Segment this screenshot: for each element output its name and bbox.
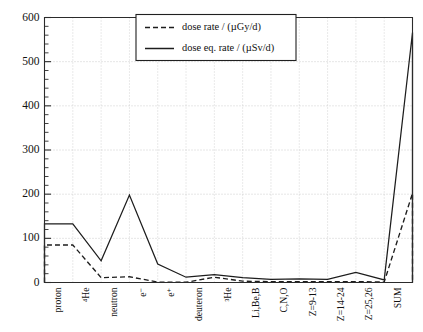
x-axis-tick-label-group: ³He (222, 288, 233, 302)
x-axis-tick-label-group: SUM (392, 287, 403, 308)
legend-entry-label: dose eq. rate / (µSv/d) (182, 42, 274, 54)
x-axis-tick-label: Li,Be,B (250, 288, 261, 318)
x-axis-tick-label-group: Z=9-13 (307, 287, 318, 316)
chart-legend: dose rate / (µGy/d)dose eq. rate / (µSv/… (136, 15, 296, 61)
x-axis-tick-label: ³He (222, 288, 233, 302)
x-axis-tick-label-group: Z=25,26 (363, 287, 374, 320)
x-axis-tick-label-group: Li,Be,B (250, 288, 261, 318)
series-layer (45, 33, 413, 283)
legend-entry-label: dose rate / (µGy/d) (182, 21, 261, 33)
y-axis-tick-label: 100 (22, 231, 40, 243)
x-axis-tick-label: neutron (108, 287, 119, 317)
x-axis-tick-label: e⁺ (165, 288, 176, 297)
y-axis-tick-label: 0 (34, 276, 40, 288)
y-axis-tick-label: 500 (22, 55, 40, 67)
x-axis-tick-label: e⁻ (137, 288, 148, 297)
x-axis-tick-label-group: proton (52, 287, 63, 312)
histogram-chart: 0100200300400500600 proton⁴Heneutrone⁻e⁺… (0, 0, 423, 332)
x-axis-tick-label: Z=14-24 (335, 287, 346, 321)
y-axis-tick-label: 400 (22, 99, 40, 111)
x-axis-tick-label-group: C,N,O (278, 287, 289, 312)
x-axis-tick-label-group: deuteron (193, 287, 204, 321)
x-axis-tick-label-group: neutron (108, 287, 119, 317)
x-axis-tick-labels: proton⁴Heneutrone⁻e⁺deuteron³HeLi,Be,BC,… (52, 287, 403, 321)
x-axis-tick-label: proton (52, 287, 63, 312)
series-dose-eq-rate (45, 33, 413, 283)
x-axis-tick-label: deuteron (193, 287, 204, 321)
x-axis-tick-label: C,N,O (278, 287, 289, 312)
x-axis-tick-label: SUM (392, 287, 403, 308)
y-axis-tick-labels: 0100200300400500600 (22, 11, 40, 288)
y-axis-tick-label: 300 (22, 143, 40, 155)
y-axis-tick-label: 200 (22, 187, 40, 199)
series-dose-rate (45, 193, 413, 282)
chart-figure: 0100200300400500600 proton⁴Heneutrone⁻e⁺… (0, 0, 423, 332)
x-axis-tick-label-group: e⁺ (165, 288, 176, 297)
x-axis-tick-label-group: e⁻ (137, 288, 148, 297)
x-axis-tick-label-group: Z=14-24 (335, 287, 346, 321)
x-axis-tick-label: ⁴He (80, 288, 91, 303)
x-axis-tick-label-group: ⁴He (80, 288, 91, 303)
x-axis-tick-label: Z=25,26 (363, 287, 374, 320)
y-axis-tick-label: 600 (22, 11, 40, 23)
x-axis-tick-label: Z=9-13 (307, 287, 318, 316)
